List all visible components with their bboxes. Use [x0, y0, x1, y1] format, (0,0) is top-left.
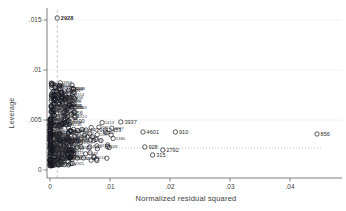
labeled-data-point [173, 130, 177, 134]
cluster-point-label-illegible: 2778 [54, 147, 64, 152]
y-tick-label: .01 [32, 66, 41, 73]
data-point-label: 3937 [124, 119, 136, 125]
labeled-data-point [150, 153, 154, 157]
cluster-point-label-illegible: 2837 [71, 131, 81, 136]
cluster-point-label-illegible: 688 [76, 87, 84, 92]
y-axis-label: Leverage [8, 98, 15, 129]
cluster-point-label-illegible: 1553 [72, 103, 82, 108]
cluster-point-label-illegible: 458 [76, 95, 84, 100]
data-point-label: 4601 [147, 129, 159, 135]
scatter-plot: 0.01.02.03.040.005.01.015492043824610222… [0, 0, 346, 211]
cluster-point-label-illegible: 4032 [80, 156, 90, 161]
data-point-label: 856 [321, 131, 330, 137]
x-tick-label: .02 [165, 183, 174, 190]
y-tick-label: 0 [38, 166, 42, 173]
cluster-point-label-illegible: 758 [61, 162, 69, 167]
data-point-label: 3056 [70, 110, 82, 116]
cluster-point-label-illegible: 4012 [97, 155, 107, 160]
x-tick-label: .01 [105, 183, 114, 190]
data-point-label: 315 [156, 152, 165, 158]
cluster-point-label-illegible: 2921 [75, 161, 85, 166]
cluster-point-label-illegible: 4575 [53, 123, 63, 128]
cluster-point-label-illegible: 1837 [80, 128, 90, 133]
x-tick-label: .03 [225, 183, 234, 190]
y-tick-label: .015 [29, 16, 42, 23]
data-point-label: 4439 [90, 127, 102, 133]
data-point-label: 928 [148, 144, 157, 150]
data-point-label: 4900 [72, 118, 84, 124]
data-point-label: 2928 [61, 15, 73, 21]
labeled-data-point [315, 132, 319, 136]
labeled-data-point [141, 130, 145, 134]
cluster-point-label-illegible: 665 [68, 93, 76, 98]
data-point-label: 2792 [166, 147, 178, 153]
x-axis-label: Normalized residual squared [136, 194, 237, 203]
x-tick-label: .04 [285, 183, 294, 190]
labeled-data-point [143, 145, 147, 149]
cluster-point-label-illegible: 448 [110, 144, 118, 149]
data-point-label: 910 [179, 129, 188, 135]
y-tick-label: .005 [29, 116, 42, 123]
cluster-point-label-illegible: 1380 [116, 136, 126, 141]
labeled-data-point [119, 120, 123, 124]
x-tick-label: 0 [48, 183, 52, 190]
cluster-point-label-illegible: 4194 [72, 143, 82, 148]
cluster-point-label-illegible: 1931 [71, 153, 81, 158]
cluster-point-label-illegible: 1092 [92, 144, 102, 149]
data-point-label: 2453 [109, 127, 121, 133]
